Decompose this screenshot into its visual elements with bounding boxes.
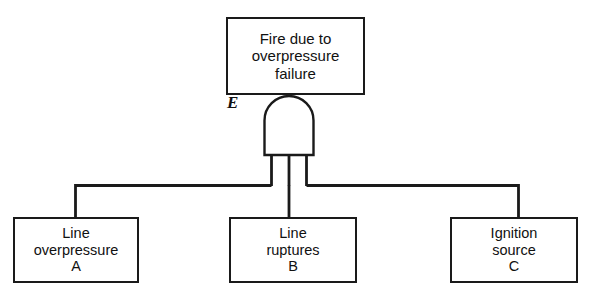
connector-gate-to-event-c <box>307 186 519 219</box>
basic-event-c-line-1: Ignition <box>491 225 538 242</box>
basic-event-b-line-1: Line <box>279 225 306 242</box>
basic-event-a-node: Line overpressure A <box>13 217 139 283</box>
basic-event-c-line-3: C <box>509 258 519 275</box>
fault-tree-diagram: Fire due to overpressure failure E Line … <box>0 0 594 302</box>
basic-event-a-line-3: A <box>71 258 81 275</box>
top-event-node: Fire due to overpressure failure <box>226 17 365 95</box>
gate-label: E <box>227 94 238 111</box>
basic-event-a-line-2: overpressure <box>34 242 119 259</box>
top-event-line-2: overpressure <box>252 47 340 65</box>
basic-event-a-line-1: Line <box>62 225 89 242</box>
basic-event-c-node: Ignition source C <box>450 217 578 283</box>
and-gate-shape <box>265 96 314 155</box>
basic-event-b-node: Line ruptures B <box>229 217 357 283</box>
top-event-line-3: failure <box>275 65 316 83</box>
top-event-line-1: Fire due to <box>260 30 332 48</box>
basic-event-b-line-3: B <box>288 258 298 275</box>
basic-event-b-line-2: ruptures <box>266 242 319 259</box>
connector-gate-to-event-a <box>76 186 272 219</box>
basic-event-c-line-2: source <box>492 242 536 259</box>
